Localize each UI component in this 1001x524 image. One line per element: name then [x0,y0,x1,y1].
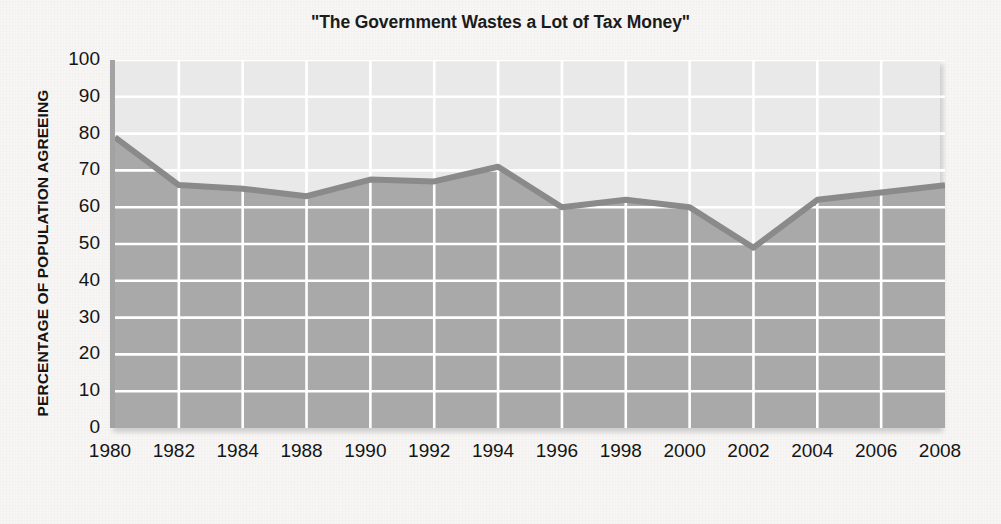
chart-figure: "The Government Wastes a Lot of Tax Mone… [0,0,1001,524]
x-tick-label: 2006 [841,440,911,462]
y-tick-label: 50 [46,232,100,254]
x-tick-label: 1994 [458,440,528,462]
chart-svg [115,60,945,428]
plot-area [110,60,940,428]
x-tick-label: 1984 [203,440,273,462]
y-tick-label: 100 [46,48,100,70]
y-tick-label: 90 [46,85,100,107]
x-tick-label: 2008 [905,440,975,462]
y-tick-label: 80 [46,122,100,144]
x-tick-label: 1982 [139,440,209,462]
y-tick-label: 40 [46,269,100,291]
y-tick-label: 20 [46,342,100,364]
area-fill [115,137,945,428]
y-tick-label: 10 [46,379,100,401]
x-axis-tick-labels: 1980198219841988199019921994199619982000… [110,440,940,470]
x-tick-label: 1992 [394,440,464,462]
y-tick-label: 0 [46,416,100,438]
chart-title: "The Government Wastes a Lot of Tax Mone… [0,12,1001,33]
x-tick-label: 2004 [777,440,847,462]
y-axis-tick-labels: 1009080706050403020100 [46,60,100,428]
y-tick-label: 30 [46,306,100,328]
x-tick-label: 1980 [75,440,145,462]
x-tick-label: 2000 [650,440,720,462]
x-tick-label: 1990 [330,440,400,462]
x-tick-label: 1998 [586,440,656,462]
x-tick-label: 1988 [267,440,337,462]
x-tick-label: 2002 [713,440,783,462]
y-tick-label: 70 [46,158,100,180]
y-tick-label: 60 [46,195,100,217]
plot-canvas [115,60,945,428]
x-tick-label: 1996 [522,440,592,462]
